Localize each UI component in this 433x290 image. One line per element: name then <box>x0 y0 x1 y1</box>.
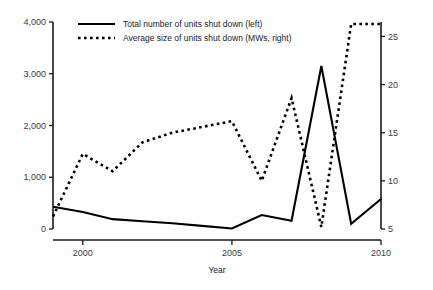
line-chart: 01,0002,0003,0004,0005101520252000200520… <box>0 0 433 290</box>
chart-container: 01,0002,0003,0004,0005101520252000200520… <box>0 0 433 290</box>
y-axis-left-tick-label: 3,000 <box>23 69 46 79</box>
y-axis-left-tick-label: 2,000 <box>23 121 46 131</box>
y-axis-right-tick-label: 5 <box>388 224 393 234</box>
legend-label: Average size of units shut down (MWs, ri… <box>123 33 292 43</box>
series-line-total-units <box>53 66 381 228</box>
y-axis-right-tick-label: 15 <box>388 128 398 138</box>
y-axis-left-tick-label: 0 <box>41 224 46 234</box>
y-axis-left-tick-label: 1,000 <box>23 172 46 182</box>
legend-label: Total number of units shut down (left) <box>123 19 263 29</box>
y-axis-left-tick-label: 4,000 <box>23 17 46 27</box>
y-axis-right-tick-label: 20 <box>388 80 398 90</box>
x-axis-title: Year <box>208 265 225 275</box>
x-axis-tick-label: 2010 <box>371 248 391 258</box>
x-axis-tick-label: 2000 <box>73 248 93 258</box>
y-axis-right-tick-label: 25 <box>388 32 398 42</box>
x-axis-tick-label: 2005 <box>222 248 242 258</box>
y-axis-right-tick-label: 10 <box>388 176 398 186</box>
